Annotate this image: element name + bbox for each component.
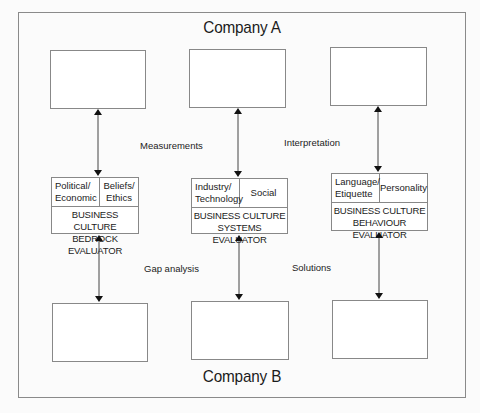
connector-arrows (0, 0, 480, 413)
